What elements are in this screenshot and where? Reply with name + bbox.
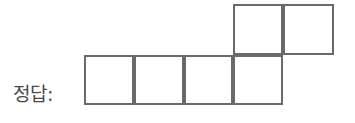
net-square-top-1 xyxy=(233,4,283,55)
page-root: 정답: xyxy=(0,0,355,123)
net-square-bottom-2 xyxy=(134,55,184,105)
net-square-bottom-4 xyxy=(233,55,283,105)
net-square-bottom-1 xyxy=(84,55,134,105)
net-square-bottom-3 xyxy=(184,55,233,105)
net-square-top-2 xyxy=(283,4,334,55)
cube-net-figure xyxy=(0,0,355,123)
